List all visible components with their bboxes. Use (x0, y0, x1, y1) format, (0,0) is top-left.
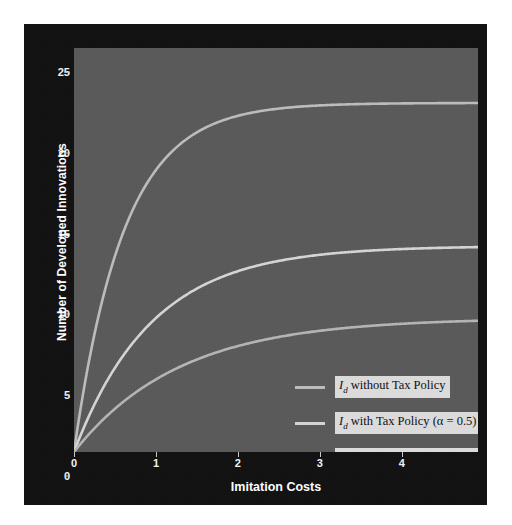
x-tick-label: 0 (71, 458, 77, 469)
y-tick-mark (65, 476, 70, 477)
x-axis-title: Imitation Costs (74, 480, 478, 494)
x-axis-ticks: 01234 (74, 458, 478, 476)
x-tick-label: 2 (235, 458, 241, 469)
y-axis-title: Number of Developed Innovations (55, 92, 69, 392)
legend-item[interactable]: Id with Tax Policy (α = 0.8) (295, 447, 478, 452)
legend-item[interactable]: Id with Tax Policy (α = 0.5) (295, 411, 478, 435)
x-tick-label: 1 (153, 458, 159, 469)
legend-label: Id with Tax Policy (α = 0.8) (335, 448, 478, 452)
legend-label: Id without Tax Policy (335, 376, 450, 398)
chart-figure: 0510152025 Number of Developed Innovatio… (24, 24, 487, 505)
legend-item[interactable]: Id without Tax Policy (295, 375, 478, 399)
y-tick-mark (65, 395, 70, 396)
y-tick-mark (65, 72, 70, 73)
legend-swatch (295, 422, 325, 425)
x-tick-label: 3 (317, 458, 323, 469)
legend-symbol: I (339, 450, 343, 452)
plot-area: Id without Tax PolicyId with Tax Policy … (74, 48, 478, 452)
legend-swatch (295, 386, 325, 389)
legend-label: Id with Tax Policy (α = 0.5) (335, 412, 478, 434)
legend-rest: with Tax Policy (α = 0.8) (348, 450, 477, 452)
y-axis-title-wrap: Number of Developed Innovations (32, 72, 52, 476)
legend-rest: without Tax Policy (348, 378, 446, 392)
scan-artifact-text (0, 2, 512, 14)
legend-rest: with Tax Policy (α = 0.5) (348, 414, 477, 428)
x-tick-label: 4 (399, 458, 405, 469)
chart-legend: Id without Tax PolicyId with Tax Policy … (295, 375, 478, 452)
